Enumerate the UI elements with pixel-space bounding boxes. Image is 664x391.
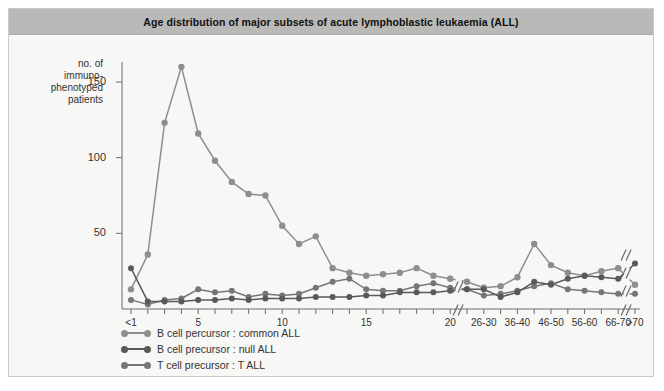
legend-label: B cell precursor : null ALL (157, 343, 276, 355)
legend-swatch-icon (121, 327, 151, 339)
chart-legend: B cell percursor : common ALLB cell prec… (121, 325, 300, 373)
plot-area: no. of immuno- phenotyped patients 50100… (9, 36, 655, 378)
y-tick-100: 100 (70, 151, 106, 163)
y-tick-50: 50 (70, 226, 106, 238)
legend-label: T cell precursor : T ALL (157, 359, 265, 371)
legend-label: B cell percursor : common ALL (157, 327, 300, 339)
legend-item-1: B cell precursor : null ALL (121, 341, 300, 357)
legend-item-0: B cell percursor : common ALL (121, 325, 300, 341)
x-tick-15: 15 (339, 317, 393, 328)
legend-swatch-icon (121, 343, 151, 355)
legend-swatch-icon (121, 359, 151, 371)
x-tick->70: >70 (608, 317, 662, 328)
page-title: Age distribution of major subsets of acu… (143, 16, 518, 28)
legend-item-2: T cell precursor : T ALL (121, 357, 300, 373)
figure-panel: Age distribution of major subsets of acu… (8, 8, 654, 377)
y-tick-150: 150 (70, 75, 106, 87)
chart-title-bar: Age distribution of major subsets of acu… (9, 9, 653, 35)
